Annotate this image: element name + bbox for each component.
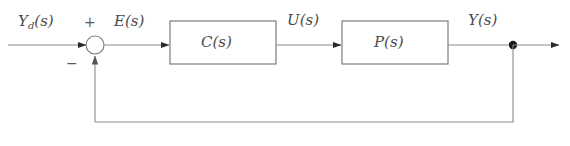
reference-signal-base: Y [18, 12, 28, 30]
output-signal-label: Y(s) [468, 13, 497, 28]
control-signal-arg: (s) [300, 11, 319, 29]
plant-block-label: P(s) [374, 35, 404, 50]
error-signal-base: E [114, 12, 125, 30]
output-signal-arg: (s) [478, 11, 497, 29]
reference-signal-arg: (s) [34, 12, 53, 30]
summing-junction-plus-sign: + [84, 15, 96, 29]
control-block-diagram: Yd(s) + − E(s) C(s) U(s) P(s) Y(s) [0, 0, 570, 146]
reference-signal-label: Yd(s) [18, 14, 54, 29]
controller-block-label: C(s) [201, 35, 232, 50]
error-signal-arg: (s) [125, 12, 144, 30]
summing-junction-minus-sign: − [66, 56, 78, 70]
reference-signal-subscript: d [28, 20, 34, 31]
control-signal-base: U [287, 11, 300, 29]
output-signal-base: Y [468, 11, 478, 29]
summing-junction [86, 36, 104, 54]
error-signal-label: E(s) [114, 14, 144, 29]
control-signal-label: U(s) [287, 13, 319, 28]
